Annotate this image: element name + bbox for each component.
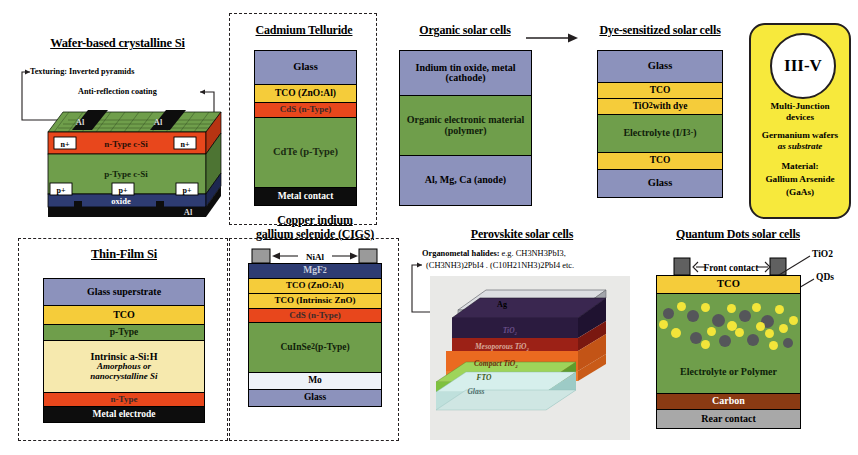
layer-glass: Glass xyxy=(255,51,356,85)
quantum-dot-icon xyxy=(765,329,774,338)
quantum-dot-icon xyxy=(659,320,668,329)
wafer-text-al-bottom: Al xyxy=(184,207,193,217)
quantum-dot-icon xyxy=(779,324,788,333)
wafer-text-al-right: Al xyxy=(154,117,163,127)
layer-tco: TCO xyxy=(598,153,722,170)
layer-tco-zno-al: TCO (ZnO:Al) xyxy=(255,85,356,103)
quantum-dot-icon xyxy=(769,341,778,350)
tio2-particle-icon xyxy=(663,308,674,319)
wafer-text-p-plus-right: p+ xyxy=(182,186,191,195)
layer-tco: TCO xyxy=(44,306,204,325)
tio2-particle-icon xyxy=(690,332,702,344)
layer-tco: TCO xyxy=(598,83,722,99)
wafer-text-p-type: p-Type c-Si xyxy=(104,169,148,179)
panel-dye-sensitized-solar-cells: Dye-sensitized solar cells GlassTCOTiO2 … xyxy=(578,24,742,224)
stack-cigs: MgF2TCO (ZnO:Al)TCO (Intrinsic ZnO)CdS (… xyxy=(248,263,382,407)
quantum-dot-icon xyxy=(727,304,736,313)
layer-cds-n-type: CdS (n-Type) xyxy=(249,309,381,323)
perovskite-label-mesoporous: Mesoporous TiO₂ xyxy=(474,342,530,351)
quantum-dot-icon xyxy=(677,302,686,311)
stack-cdte: GlassTCO (ZnO:Al)CdS (n-Type)CdTe (p-Typ… xyxy=(254,50,357,206)
tio2-particle-icon xyxy=(687,310,699,322)
wafer-text-n-plus-left: n+ xyxy=(60,140,69,149)
tio2-particle-icon xyxy=(712,314,725,327)
stack-thinfilm: Glass superstrateTCOp-TypeIntrinsic a-Si… xyxy=(43,278,205,423)
layer-electrolyte-or-polymer: Electrolyte or Polymer xyxy=(657,352,800,394)
layer-glass-superstrate: Glass superstrate xyxy=(44,279,204,306)
layer-metal-contact: Metal contact xyxy=(255,188,356,205)
quantum-dot-icon xyxy=(752,303,761,312)
wafer-text-p-plus-left: p+ xyxy=(56,186,65,195)
wafer-text-oxide: oxide xyxy=(111,196,131,206)
quantum-dot-icon xyxy=(701,303,710,312)
panel-title-cigs-line1: Copper indium xyxy=(236,214,394,227)
quantum-dot-icon xyxy=(775,305,784,314)
panel-cadmium-telluride: Cadmium Telluride GlassTCO (ZnO:Al)CdS (… xyxy=(238,24,370,224)
quantum-dot-icon xyxy=(735,328,744,337)
panel-organic-solar-cells: Organic solar cells Indium tin oxide, me… xyxy=(391,24,539,224)
layer-cuinse2-p-type: CuInSe2 (p-Type) xyxy=(249,323,381,373)
tio2-particle-icon xyxy=(783,338,793,348)
wafer-text-p-plus-mid: p+ xyxy=(118,186,127,195)
layer-electrolyte-i-i3: Electrolyte (I/I3-) xyxy=(598,115,722,153)
layer-tco-intrinsic-zno: TCO (Intrinsic ZnO) xyxy=(249,294,381,309)
stack-dssc: GlassTCOTiO2 with dyeElectrolyte (I/I3-)… xyxy=(597,50,723,198)
cigs-nial-label: NiAl xyxy=(306,252,324,262)
layer-sublabel-2: nanocrystalline Si xyxy=(90,372,157,381)
panel-wafer-crystalline-si: Wafer-based crystalline Si Texturing: In… xyxy=(8,20,223,225)
layer-region-1 xyxy=(657,294,800,352)
quantum-dot-icon xyxy=(756,322,765,331)
tio2-particle-icon xyxy=(719,335,731,347)
quantum-dot-icon xyxy=(701,340,710,349)
stack-qd: TCOElectrolyte or PolymerCarbonRear cont… xyxy=(656,275,801,429)
layer-metal-electrode: Metal electrode xyxy=(44,407,204,422)
layer-glass: Glass xyxy=(598,51,722,83)
iii-v-badge: III-V xyxy=(770,33,836,99)
perovskite-label-fto: FTO xyxy=(477,373,492,382)
tio2-particle-icon xyxy=(747,334,759,346)
iii-v-line-5: Gallium Arsenide xyxy=(751,174,849,185)
panel-title-qd: Quantum Dots solar cells xyxy=(634,228,842,241)
layer-tco: TCO xyxy=(657,276,800,294)
iii-v-line-4: Material: xyxy=(751,161,849,172)
layer-organic-electronic-material-polymer: Organic electronic material (polymer) xyxy=(400,96,531,156)
quantum-dot-icon xyxy=(789,316,798,325)
quantum-dot-icon xyxy=(727,321,737,331)
iii-v-line-3: as substrate xyxy=(751,141,849,152)
panel-iii-v: III-V Multi-Junction devices Germanium w… xyxy=(749,23,851,219)
wafer-3d-diagram: n+ n+ n-Type c-Si p-Type c-Si p+ p+ p+ o… xyxy=(16,100,221,225)
panel-thin-film-si: Thin-Film Si Glass superstrateTCOp-TypeI… xyxy=(26,248,222,434)
panel-title-organic: Organic solar cells xyxy=(391,24,539,37)
iii-v-line-6: (GaAs) xyxy=(751,187,849,198)
stack-organic: Indium tin oxide, metal (cathode)Organic… xyxy=(399,50,532,206)
layer-p-type: p-Type xyxy=(44,325,204,341)
wafer-text-n-type: n-Type c-Si xyxy=(104,139,148,149)
layer-intrinsic-a-si-h: Intrinsic a-Si:HAmorphous ornanocrystall… xyxy=(44,341,204,393)
perovskite-label-compact: Compact TiO₂ xyxy=(474,359,518,368)
panel-quantum-dots-solar-cells: Quantum Dots solar cells TiO2 QDs Front … xyxy=(630,228,858,443)
iii-v-line-1: devices xyxy=(751,112,849,123)
panel-title-thinfilm: Thin-Film Si xyxy=(26,248,222,262)
qd-callout-front-contact: Front contact xyxy=(704,263,760,273)
layer-carbon: Carbon xyxy=(657,394,800,410)
panel-title-dssc: Dye-sensitized solar cells xyxy=(578,24,742,37)
arrow-organic-to-dssc xyxy=(524,30,582,46)
wafer-text-n-plus-right: n+ xyxy=(180,140,189,149)
layer-cds-n-type: CdS (n-Type) xyxy=(255,103,356,118)
iii-v-line-0: Multi-Junction xyxy=(751,101,849,112)
tio2-particle-icon xyxy=(739,310,751,322)
iii-v-line-2: Germanium wafers xyxy=(751,130,849,141)
perovskite-label-ag: Ag xyxy=(497,300,507,309)
panel-title-cdte: Cadmium Telluride xyxy=(238,24,370,37)
panel-perovskite-solar-cells: Perovskite solar cells Organometal halid… xyxy=(404,228,634,443)
layer-mo: Mo xyxy=(249,373,381,390)
layer-indium-tin-oxide-metal-cathode: Indium tin oxide, metal (cathode) xyxy=(400,51,531,96)
layer-tio2-with-dye: TiO2 with dye xyxy=(598,99,722,115)
wafer-text-al-left: Al xyxy=(76,117,85,127)
perovskite-label-tio2: TiO₂ xyxy=(503,326,518,335)
panel-cigs: Copper indium gallium selenide (CIGS) Ni… xyxy=(236,214,394,436)
layer-al-mg-ca-anode: Al, Mg, Ca (anode) xyxy=(400,156,531,205)
layer-cdte-p-type: CdTe (p-Type) xyxy=(255,118,356,188)
quantum-dot-icon xyxy=(671,328,681,338)
perovskite-label-glass: Glass xyxy=(467,387,484,396)
